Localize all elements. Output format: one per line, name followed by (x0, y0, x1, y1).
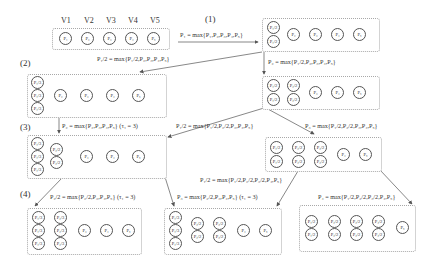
node-p3-half: P₃/2 (350, 228, 363, 241)
node-p2-half: P₂/2 (50, 156, 63, 169)
step-label-2: (2) (20, 58, 31, 68)
state-box-B: P₁/2 P₁/2 P₂/2 P₂/2 P₃ P₄ P₅ (262, 76, 380, 110)
node-p2: P₂ (81, 32, 94, 45)
node-p3: P₃ (78, 224, 91, 237)
node-p2-half: P₂/2 (292, 141, 305, 154)
state-box-A: P₁/3 P₁/3 P₁/3 P₂ P₃ P₄ P₅ (27, 74, 167, 118)
step-label-1: (1) (205, 14, 216, 24)
node-p1-third: P₁/3 (169, 237, 182, 250)
state-box-step1: P₁/2 P₁/2 P₂ P₃ P₄ P₅ (262, 18, 380, 52)
node-p4: P₄ (331, 86, 344, 99)
node-p2-third: P₂/3 (54, 224, 67, 237)
node-p5: P₅ (122, 224, 135, 237)
node-p4: P₄ (237, 224, 250, 237)
state-box-C: P₁/3 P₁/3 P₁/3 P₂/2 P₂/2 P₃ P₄ P₅ (27, 135, 167, 179)
node-p2-half: P₂/2 (328, 228, 341, 241)
node-p5: P₅ (353, 28, 366, 41)
node-p5: P₅ (132, 150, 145, 163)
equation-C-to-F: P₃ = max{P₂/2,P₃,P₄,P₅} (τ₁ = 3) (177, 193, 258, 200)
node-p4: P₄ (125, 32, 138, 45)
equation-step1: P₁ = max{P₁,P₂,P₃,P₄,P₅} (180, 31, 243, 38)
node-p5: P₅ (359, 148, 372, 161)
node-p4: P₄ (100, 224, 113, 237)
equation-C-to-E: P₂/2 = max{P₂/2,P₃,P₄,P₅} (τ₁ = 3) (50, 193, 135, 200)
node-p4: P₄ (106, 89, 119, 102)
node-p2: P₂ (54, 89, 67, 102)
node-p5: P₅ (259, 224, 272, 237)
vertex-label-v1: V1 (61, 16, 71, 25)
state-box-initial: P₁ P₂ P₃ P₄ P₅ (52, 28, 170, 50)
state-box-G: P₁/2 P₁/2 P₂/2 P₂/2 P₃/2 P₃/2 P₄/2 P₄/2 … (299, 205, 416, 252)
node-p3: P₃ (309, 86, 322, 99)
equation-D-to-G: P₄ = max{P₁/2,P₂/2,P₃/2,P₄,P₅} (318, 193, 395, 200)
node-p2-half: P₂/2 (191, 230, 204, 243)
node-p1-half: P₁/2 (305, 215, 318, 228)
node-p3: P₃ (103, 32, 116, 45)
vertex-label-v5: V5 (150, 16, 160, 25)
vertex-label-v4: V4 (128, 16, 138, 25)
step-label-3: (3) (20, 122, 31, 132)
node-p1-half: P₁/2 (267, 79, 280, 92)
node-p2-half: P₂/2 (287, 79, 300, 92)
node-p1-third: P₁/3 (31, 76, 44, 89)
node-p4: P₄ (337, 148, 350, 161)
node-p5: P₅ (353, 86, 366, 99)
node-p4-half: P₄/2 (372, 215, 385, 228)
node-p4: P₄ (106, 150, 119, 163)
vertex-label-v3: V3 (106, 16, 116, 25)
node-p1-third: P₁/3 (169, 224, 182, 237)
node-p3-half: P₃/2 (350, 215, 363, 228)
node-p1: P₁ (59, 32, 72, 45)
node-p5: P₅ (132, 89, 145, 102)
node-p5: P₅ (396, 221, 409, 234)
node-p3-half: P₃/2 (213, 217, 226, 230)
node-p5: P₅ (147, 32, 160, 45)
node-p1-third: P₁/3 (32, 211, 45, 224)
equation-A-to-C: P₂ = max{P₂,P₃,P₄,P₅} (τ₁ = 3) (62, 122, 138, 129)
equation-D-to-F: P₁/2 = max{P₁/2,P₂/2,P₃/2,P₄,P₅} (200, 176, 282, 183)
equation-to-B: P₂ = max{P₁/2,P₂,P₃,P₄,P₅} (268, 58, 336, 65)
node-p2-half: P₂/2 (50, 143, 63, 156)
node-p1-half: P₁/2 (270, 155, 283, 168)
node-p4: P₄ (331, 28, 344, 41)
node-p3-half: P₃/2 (314, 155, 327, 168)
node-p2-half: P₂/2 (328, 215, 341, 228)
state-box-F: P₁/3 P₁/3 P₁/3 P₂/2 P₂/2 P₃/2 P₃/2 P₄ P₅ (164, 208, 282, 255)
node-p1-half: P₁/2 (267, 35, 280, 48)
node-p1-third: P₁/3 (169, 211, 182, 224)
node-p1-third: P₁/3 (31, 137, 44, 150)
node-p3: P₃ (80, 89, 93, 102)
node-p1-third: P₁/3 (31, 89, 44, 102)
node-p2-half: P₂/2 (287, 93, 300, 106)
state-box-E: P₁/3 P₁/3 P₁/3 P₂/3 P₂/3 P₂/3 P₃ P₄ P₅ (27, 208, 142, 255)
node-p1-third: P₁/3 (31, 163, 44, 176)
step-label-4: (4) (20, 189, 31, 199)
node-p1-half: P₁/2 (305, 228, 318, 241)
node-p2-half: P₂/2 (292, 155, 305, 168)
node-p2: P₂ (287, 28, 300, 41)
node-p2-third: P₂/3 (54, 237, 67, 250)
node-p1-third: P₁/3 (32, 224, 45, 237)
node-p1-third: P₁/3 (31, 150, 44, 163)
node-p3: P₃ (80, 150, 93, 163)
node-p2-half: P₂/2 (191, 217, 204, 230)
node-p1-half: P₁/2 (267, 93, 280, 106)
node-p1-half: P₁/2 (267, 21, 280, 34)
node-p2-third: P₂/3 (54, 211, 67, 224)
node-p3: P₃ (309, 28, 322, 41)
vertex-label-v2: V2 (84, 16, 94, 25)
node-p1-third: P₁/3 (31, 102, 44, 115)
node-p1-third: P₁/3 (32, 237, 45, 250)
node-p1-half: P₁/2 (270, 141, 283, 154)
state-box-D: P₁/2 P₁/2 P₂/2 P₂/2 P₃/2 P₃/2 P₄ P₅ (265, 137, 382, 172)
equation-B-to-C: P₁/2 = max{P₁/2,P₂/2,P₃,P₄,P₅} (176, 122, 253, 129)
node-p3-half: P₃/2 (314, 141, 327, 154)
equation-B-to-D: P₃ = max{P₁/2,P₂/2,P₃,P₄,P₅} (305, 122, 378, 129)
equation-to-A: P₁/2 = max{P₁/2,P₂,P₃,P₄,P₅} (97, 55, 170, 62)
node-p4-half: P₄/2 (372, 228, 385, 241)
node-p3-half: P₃/2 (213, 230, 226, 243)
